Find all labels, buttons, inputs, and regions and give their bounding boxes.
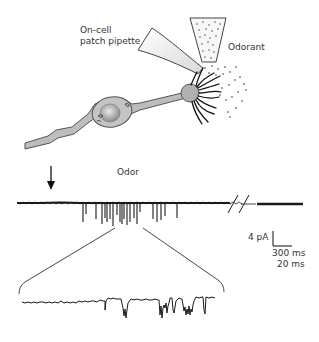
nucleus	[100, 104, 120, 122]
olfactory-neuron	[25, 84, 199, 149]
main-current-trace	[17, 195, 303, 226]
scale-time-main-label: 300 ms	[272, 248, 306, 259]
odor-response-events	[83, 204, 177, 226]
patch-pipette	[138, 28, 203, 74]
odorant-pipette	[190, 18, 226, 62]
dendritic-knob	[181, 84, 199, 102]
zoom-expansion-lines	[19, 228, 224, 294]
stimulus-arrow	[47, 166, 55, 190]
scale-bar	[273, 231, 292, 246]
scale-current-label: 4 pA	[248, 232, 268, 243]
pipette-label-line2: patch pipette	[80, 36, 140, 47]
pipette-label-line1: On-cell	[80, 25, 112, 36]
odorant-label: Odorant	[228, 42, 265, 53]
expanded-current-trace	[22, 297, 215, 318]
figure-canvas	[0, 0, 319, 342]
scale-time-expanded-label: 20 ms	[277, 259, 305, 270]
odor-label: Odor	[117, 167, 139, 178]
